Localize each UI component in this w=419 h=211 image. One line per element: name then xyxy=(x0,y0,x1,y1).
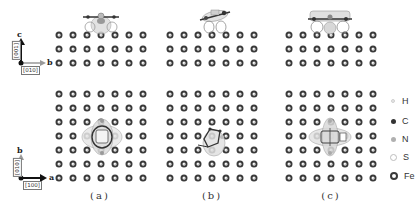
fe-atom xyxy=(237,147,244,154)
fe-atom xyxy=(70,119,77,126)
fe-atom xyxy=(56,91,63,98)
fe-atom xyxy=(328,175,335,182)
iron-dot-icon xyxy=(390,172,398,180)
fe-atom xyxy=(98,46,105,53)
fe-atom xyxy=(251,91,258,98)
fe-atom xyxy=(328,60,335,67)
fe-atom xyxy=(98,161,105,168)
fe-atom xyxy=(370,119,377,126)
fe-atom xyxy=(84,91,91,98)
legend-item-n: N xyxy=(390,133,409,145)
fe-atom xyxy=(286,105,293,112)
fe-atom xyxy=(56,147,63,154)
fe-atom xyxy=(126,32,133,39)
fe-atom xyxy=(223,161,230,168)
fe-atom xyxy=(314,91,321,98)
fe-atom xyxy=(195,175,202,182)
fe-atom xyxy=(140,91,147,98)
legend-item-c: C xyxy=(390,115,409,127)
fe-atom xyxy=(286,32,293,39)
fe-atom xyxy=(167,119,174,126)
fe-atom xyxy=(56,133,63,140)
fe-atom xyxy=(167,147,174,154)
fe-atom xyxy=(370,60,377,67)
fe-atom xyxy=(167,91,174,98)
fe-atom xyxy=(84,60,91,67)
fe-atom xyxy=(112,60,119,67)
fe-atom xyxy=(300,133,307,140)
fe-atom xyxy=(70,175,77,182)
fe-atom xyxy=(342,46,349,53)
fe-atom xyxy=(126,60,133,67)
fe-atom xyxy=(370,105,377,112)
fe-atom xyxy=(237,60,244,67)
fe-atom xyxy=(126,46,133,53)
fe-atom xyxy=(223,91,230,98)
fe-atom xyxy=(126,133,133,140)
axis-direction-001: [001] xyxy=(12,41,21,60)
fe-atom xyxy=(342,161,349,168)
fe-atom xyxy=(167,60,174,67)
fe-atom xyxy=(140,46,147,53)
fe-atom xyxy=(286,46,293,53)
fe-atom xyxy=(209,161,216,168)
fe-atom xyxy=(328,91,335,98)
fe-atom xyxy=(342,105,349,112)
fe-atom xyxy=(370,147,377,154)
fe-atom xyxy=(237,32,244,39)
fe-atom xyxy=(370,91,377,98)
fe-atom xyxy=(223,60,230,67)
fe-atom xyxy=(251,32,258,39)
fe-atom xyxy=(251,105,258,112)
axis-direction-100: [100] xyxy=(23,181,42,190)
fe-atom xyxy=(70,105,77,112)
axis-arrows-icon xyxy=(0,0,50,70)
fe-atom xyxy=(126,175,133,182)
fe-atom xyxy=(328,46,335,53)
adsorbate-side-view-c xyxy=(302,7,358,37)
fe-atom xyxy=(126,161,133,168)
fe-atom xyxy=(84,105,91,112)
fe-atom xyxy=(237,175,244,182)
fe-atom xyxy=(356,147,363,154)
fe-atom xyxy=(70,147,77,154)
fe-atom xyxy=(237,133,244,140)
legend-item-s: S xyxy=(390,151,409,163)
fe-atom xyxy=(195,60,202,67)
fe-atom xyxy=(195,46,202,53)
legend-item-h: H xyxy=(390,95,409,107)
fe-atom xyxy=(167,32,174,39)
panel-label-a: (a) xyxy=(90,190,110,201)
fe-atom xyxy=(181,91,188,98)
axis-direction-010-top: [010] xyxy=(13,158,22,177)
fe-atom xyxy=(370,46,377,53)
fe-atom xyxy=(84,161,91,168)
fe-atom xyxy=(181,147,188,154)
fe-atom xyxy=(223,46,230,53)
fe-atom xyxy=(209,175,216,182)
fe-atom xyxy=(140,175,147,182)
fe-atom xyxy=(356,133,363,140)
fe-atom xyxy=(300,46,307,53)
fe-atom xyxy=(251,175,258,182)
fe-atom xyxy=(167,161,174,168)
legend-item-fe: Fe xyxy=(390,170,415,182)
fe-atom xyxy=(237,105,244,112)
fe-atom xyxy=(356,60,363,67)
fe-atom xyxy=(140,105,147,112)
fe-atom xyxy=(181,46,188,53)
fe-atom xyxy=(195,105,202,112)
fe-atom xyxy=(251,161,258,168)
fe-atom xyxy=(314,105,321,112)
fe-atom xyxy=(356,91,363,98)
fe-atom xyxy=(370,32,377,39)
fe-atom xyxy=(126,91,133,98)
panel-label-b: (b) xyxy=(202,190,222,201)
fe-atom xyxy=(286,60,293,67)
fe-atom xyxy=(70,133,77,140)
fe-atom xyxy=(314,60,321,67)
fe-atom xyxy=(140,147,147,154)
fe-atom xyxy=(286,161,293,168)
fe-atom xyxy=(56,32,63,39)
fe-atom xyxy=(286,133,293,140)
